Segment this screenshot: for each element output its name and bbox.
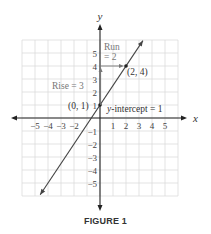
y-tick-label: −2 <box>87 140 97 150</box>
point-label-2-4: (2, 4) <box>127 67 148 78</box>
y-tick-label: 1 <box>93 101 98 111</box>
run-arrow-head-icon <box>119 64 124 68</box>
x-axis-arrow-left-icon <box>11 116 17 121</box>
rise-label: Rise = 3 <box>52 81 84 91</box>
x-axis-arrow-right-icon <box>181 116 187 121</box>
y-axis-arrow-up-icon <box>98 24 103 30</box>
coordinate-plane: xy −5−4−3−21234554321−1−2−3−4−5 Run= 2Ri… <box>0 0 211 234</box>
run-label-value: = 2 <box>104 52 117 62</box>
y-tick-label: 4 <box>93 62 98 72</box>
y-tick-label: 2 <box>93 88 98 98</box>
run-label: Run <box>104 42 120 52</box>
x-tick-label: 5 <box>163 121 168 131</box>
y-tick-label: −1 <box>87 127 97 137</box>
y-axis-label: y <box>97 10 103 22</box>
x-tick-label: −3 <box>56 121 66 131</box>
y-axis-arrow-down-icon <box>98 205 103 211</box>
x-tick-label: 1 <box>111 121 116 131</box>
y-tick-label: 3 <box>93 75 98 85</box>
x-tick-label: 2 <box>124 121 129 131</box>
y-intercept-label: y-intercept = 1 <box>106 104 163 114</box>
y-tick-label: −3 <box>87 153 97 163</box>
y-tick-label: −4 <box>87 166 97 176</box>
y-tick-label: −5 <box>87 179 97 189</box>
figure-caption: FIGURE 1 <box>0 216 211 226</box>
x-tick-label: −5 <box>30 121 40 131</box>
y-tick-label: 5 <box>93 49 98 59</box>
point-label-0-1: (0, 1) <box>68 101 89 112</box>
rise-arrow-head-icon <box>99 67 103 72</box>
x-axis-label: x <box>192 112 198 124</box>
x-tick-label: −4 <box>43 121 53 131</box>
x-tick-label: 4 <box>150 121 155 131</box>
point-marker <box>98 103 102 107</box>
line-arrow-down-icon <box>40 189 45 195</box>
x-tick-label: −2 <box>69 121 79 131</box>
x-tick-label: 3 <box>137 121 142 131</box>
